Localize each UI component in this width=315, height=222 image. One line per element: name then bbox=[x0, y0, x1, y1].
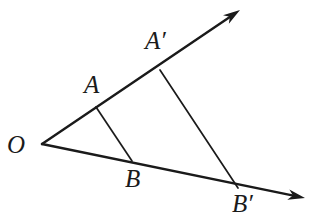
geometry-figure: O A A′ B B′ bbox=[0, 0, 315, 222]
label-point-B-prime: B′ bbox=[232, 191, 253, 216]
label-point-O: O bbox=[7, 132, 25, 157]
ray-OA-upper bbox=[42, 16, 231, 144]
ray-upper-group bbox=[42, 10, 240, 144]
label-point-A-prime: A′ bbox=[145, 28, 166, 53]
ray-upper-arrowhead bbox=[223, 10, 240, 24]
label-point-B: B bbox=[125, 166, 140, 191]
ray-lower-group bbox=[42, 144, 305, 200]
ray-OB-lower bbox=[42, 144, 295, 196]
segment-AB bbox=[96, 107, 132, 161]
label-point-A: A bbox=[84, 72, 99, 97]
